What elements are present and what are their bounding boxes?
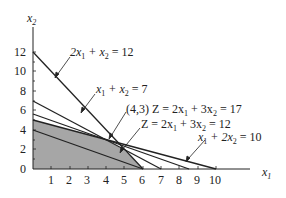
label-x1-x2-7: x1 + x2 = 7	[95, 82, 148, 98]
svg-text:7: 7	[158, 173, 164, 187]
svg-text:8: 8	[176, 173, 182, 187]
x-tick-labels: 12 34 56 78 910	[48, 173, 221, 187]
svg-text:9: 9	[194, 173, 200, 187]
svg-text:4: 4	[103, 173, 109, 187]
svg-text:2: 2	[66, 173, 72, 187]
svg-text:10: 10	[209, 173, 221, 187]
svg-text:6: 6	[20, 103, 26, 117]
svg-text:1: 1	[48, 173, 54, 187]
svg-text:8: 8	[20, 84, 26, 98]
y-tick-labels: 02 46 810 12	[14, 45, 26, 176]
svg-text:0: 0	[20, 162, 26, 176]
svg-text:2: 2	[20, 142, 26, 156]
x-axis-label: x1	[261, 165, 271, 181]
chart-canvas: 12 34 56 78 910 02 46 810 12 x2 x1 2x1 +…	[0, 0, 286, 198]
svg-text:4: 4	[20, 123, 26, 137]
label-2x1-x2-12: 2x1 + x2 = 12	[70, 45, 134, 61]
label-x1-2x2-10: x1 + 2x2 = 10	[197, 130, 262, 146]
y-axis-label: x2	[26, 11, 36, 27]
svg-text:3: 3	[84, 173, 90, 187]
svg-text:12: 12	[14, 45, 26, 59]
svg-text:10: 10	[14, 64, 26, 78]
label-z-17: (4,3) Z = 2x1 + 3x2 = 17	[126, 102, 242, 118]
svg-text:5: 5	[121, 173, 127, 187]
lp-graph: 12 34 56 78 910 02 46 810 12 x2 x1 2x1 +…	[0, 0, 286, 198]
svg-text:6: 6	[139, 173, 145, 187]
